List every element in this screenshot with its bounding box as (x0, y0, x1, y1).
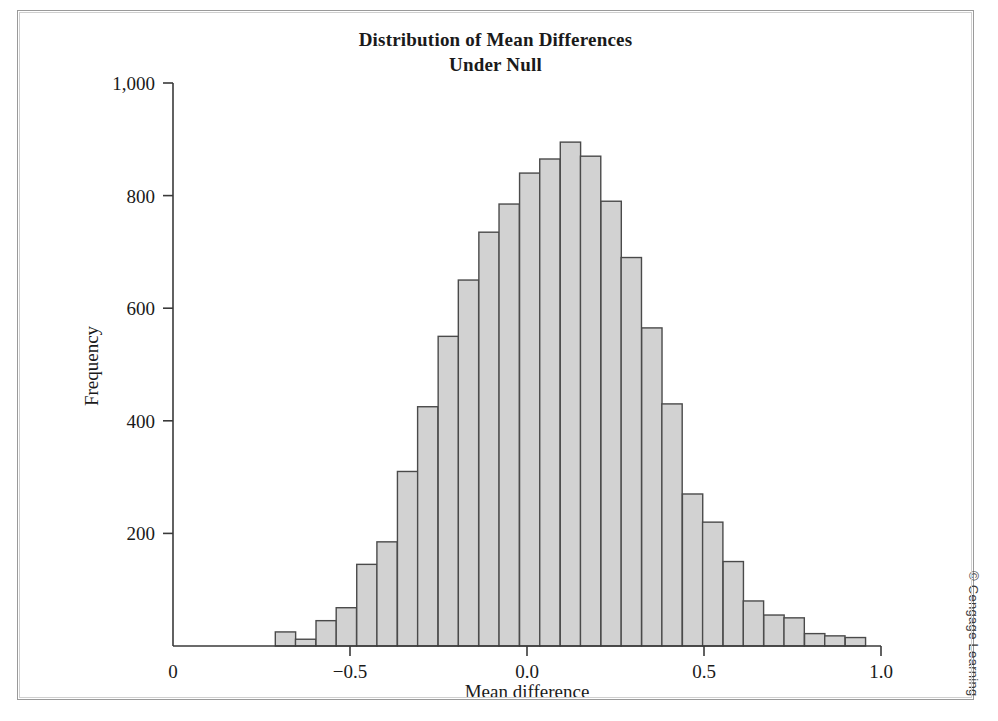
histogram-bar (295, 639, 315, 646)
histogram-bar (601, 201, 621, 646)
histogram-plot: 2004006008001,000 0−0.50.00.51.0 Mean di… (18, 11, 975, 701)
histogram-bar (397, 471, 417, 646)
y-axis-tick-label: 1,000 (112, 73, 155, 94)
histogram-bar (438, 336, 458, 646)
histogram-bar (703, 522, 723, 646)
copyright-notice: © Cengage Learning (966, 571, 981, 591)
x-axis-tick-label: 1.0 (869, 661, 893, 682)
y-axis-tick-label: 200 (127, 523, 156, 544)
x-axis-tick-label: 0.0 (515, 661, 539, 682)
histogram-bar (540, 159, 560, 646)
histogram-bar (458, 280, 478, 646)
x-axis-ticks: 0−0.50.00.51.0 (168, 646, 893, 682)
figure-frame: Distribution of Mean Differences Under N… (17, 10, 974, 700)
histogram-bar (499, 204, 519, 646)
histogram-bar (743, 601, 763, 646)
histogram-bars (275, 142, 865, 646)
histogram-bar (723, 562, 743, 646)
y-axis-ticks: 2004006008001,000 (112, 73, 173, 544)
histogram-bar (336, 608, 356, 646)
histogram-bar (825, 636, 845, 646)
histogram-bar (621, 258, 641, 646)
histogram-bar (845, 638, 865, 646)
x-axis-tick-label: 0 (168, 661, 178, 682)
histogram-bar (560, 142, 580, 646)
y-axis-tick-label: 800 (127, 186, 156, 207)
histogram-bar (520, 173, 540, 646)
histogram-bar (784, 618, 804, 646)
histogram-bar (479, 232, 499, 646)
histogram-bar (805, 634, 825, 646)
histogram-bar (418, 407, 438, 646)
y-axis-tick-label: 400 (127, 411, 156, 432)
x-axis-tick-label: −0.5 (333, 661, 367, 682)
histogram-bar (764, 615, 784, 646)
x-axis-tick-label: 0.5 (692, 661, 716, 682)
y-axis-title: Frequency (81, 325, 102, 406)
histogram-bar (662, 404, 682, 646)
y-axis-tick-label: 600 (127, 298, 156, 319)
histogram-bar (275, 632, 295, 646)
histogram-bar (682, 494, 702, 646)
histogram-bar (642, 328, 662, 646)
histogram-bar (580, 156, 600, 646)
histogram-bar (357, 564, 377, 646)
histogram-bar (377, 542, 397, 646)
histogram-bar (316, 621, 336, 646)
x-axis-title: Mean difference (465, 681, 590, 701)
